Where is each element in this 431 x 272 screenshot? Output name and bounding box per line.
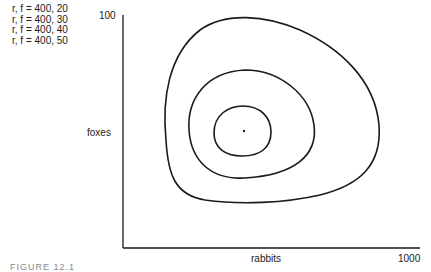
- orbit-400-30: [189, 70, 315, 178]
- equilibrium-point: [243, 130, 245, 132]
- orbit-400-40: [214, 106, 271, 156]
- figure-caption: FIGURE 12.1: [10, 262, 75, 272]
